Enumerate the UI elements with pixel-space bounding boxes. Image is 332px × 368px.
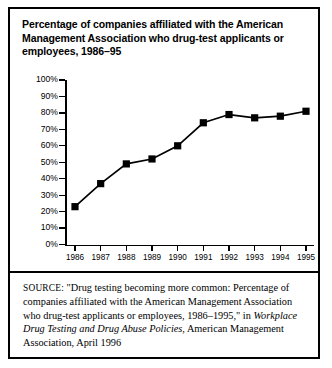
data-point-marker [123,160,130,167]
data-point-marker [174,142,181,149]
figure-panel: Percentage of companies affiliated with … [8,7,320,359]
chart-title: Percentage of companies affiliated with … [22,18,300,59]
section-divider [10,271,318,273]
source-text-part1: "Drug testing becoming more common: Perc… [23,282,292,321]
chart-plot-area: 100%90%80%70%60%50%40%30%20%10%0% 198619… [10,67,318,267]
data-point-marker [97,180,104,187]
data-point-marker [277,113,284,120]
data-point-marker [148,155,155,162]
data-point-marker [71,203,78,210]
data-point-marker [225,111,232,118]
series-line [75,111,306,206]
line-series [10,67,318,267]
data-point-marker [302,108,309,115]
source-label: SOURCE: [23,283,64,293]
source-note: SOURCE: "Drug testing becoming more comm… [23,281,299,349]
data-point-marker [251,114,258,121]
data-point-marker [200,119,207,126]
